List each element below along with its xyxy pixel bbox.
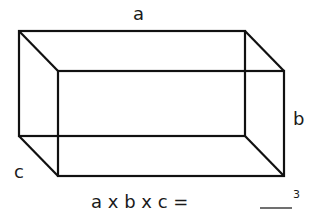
edge-top-right [245, 31, 284, 71]
front-face [58, 71, 284, 176]
edge-bottom-right [245, 136, 284, 176]
formula-text: a x b x c = [91, 191, 188, 212]
back-face [19, 31, 245, 136]
prism-edges [19, 31, 284, 176]
unit-exponent: 3 [293, 188, 300, 201]
prism-diagram: a b c a x b x c = 3 [0, 0, 315, 221]
label-b: b [293, 108, 304, 129]
edge-top-left [19, 31, 58, 71]
label-a: a [133, 3, 144, 24]
label-c: c [14, 161, 24, 182]
edge-bottom-left [19, 136, 58, 176]
